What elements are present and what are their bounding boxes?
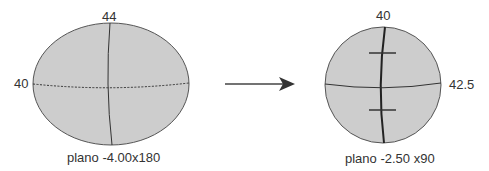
- right-top-power-label: 40: [376, 9, 390, 22]
- left-caption: plano -4.00x180: [67, 151, 160, 164]
- left-side-power-label: 40: [14, 77, 28, 90]
- right-caption: plano -2.50 x90: [345, 152, 435, 165]
- diagram-canvas: [0, 0, 489, 171]
- right-arrow-icon: [225, 77, 295, 91]
- right-lens-circle: [325, 27, 441, 143]
- left-top-power-label: 44: [102, 10, 116, 23]
- right-side-power-label: 42.5: [449, 78, 474, 91]
- left-lens-ellipse: [33, 23, 189, 145]
